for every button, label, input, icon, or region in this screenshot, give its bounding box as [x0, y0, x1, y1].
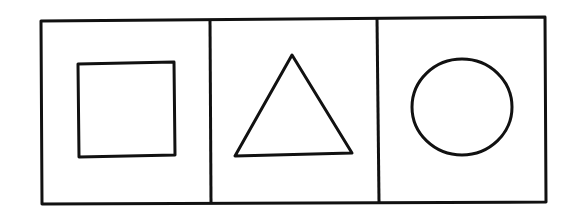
square-shape — [78, 62, 175, 157]
circle-shape — [412, 59, 512, 155]
shapes-diagram — [0, 0, 578, 219]
divider-2 — [377, 18, 379, 202]
triangle-shape — [235, 55, 352, 156]
divider-1 — [210, 19, 211, 203]
panel-triangle — [235, 55, 352, 156]
panel-circle — [412, 59, 512, 155]
panel-square — [78, 62, 175, 157]
outer-frame — [41, 17, 546, 204]
panel-dividers — [210, 18, 379, 203]
